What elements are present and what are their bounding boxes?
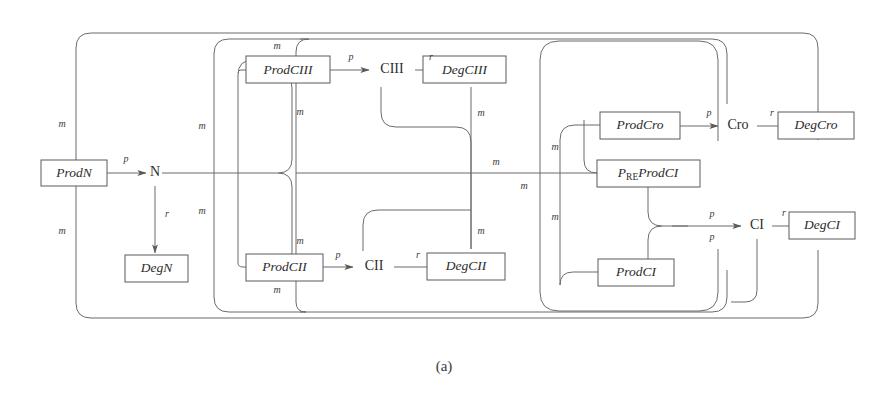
species-n: N (150, 164, 160, 179)
loop6-to-prodci (560, 272, 598, 285)
feedback-loop-cro-inner (560, 125, 600, 285)
rate-label-cro-to-degcro: r (770, 107, 774, 118)
rate-label-preprodci-to-ci: p (709, 208, 715, 219)
rate-label-prodcii-to-cii: p (335, 249, 341, 260)
loop-n-top-path (76, 33, 818, 140)
node-prodciii: ProdCIII (246, 56, 330, 83)
mod-label-cro-upper: m (551, 141, 558, 152)
rate-label-prodciii-to-ciii: p (348, 51, 354, 62)
prodciii-label: ProdCIII (263, 62, 314, 77)
prodci-regulation (584, 120, 597, 173)
network-diagram: ProdCIII CIII DegCIII ProdN N DegN ProdC… (0, 0, 889, 404)
node-prodcro: ProdCro (600, 112, 680, 139)
prodci-up-to-ci (648, 226, 662, 259)
mod-label-degciii-down: m (477, 107, 484, 118)
node-prodn: ProdN (41, 160, 107, 186)
rate-label-prodci-to-ci: p (709, 231, 715, 242)
rate-label-prodcro-to-cro: p (706, 107, 712, 118)
loop3-to-prodcii (238, 263, 246, 267)
figure-caption: (a) (436, 358, 453, 375)
mod-label-degcii-up: m (477, 225, 484, 236)
node-degciii: DegCIII (423, 56, 506, 83)
ci-merge: CI DegCI (648, 187, 855, 302)
ci-feedback-bottom (731, 239, 757, 302)
prodci-label: ProdCI (615, 264, 658, 279)
prodcii-label: ProdCII (261, 259, 308, 274)
degciii-label: DegCIII (441, 62, 488, 77)
rail-296-top-arc (296, 39, 309, 52)
degcii-label: DegCII (445, 258, 488, 273)
species-ciii: CIII (380, 61, 404, 76)
node-prodci: ProdCI (598, 259, 674, 286)
prodn-label: ProdN (55, 165, 92, 180)
mod-label-midline: m (492, 156, 499, 167)
rail-296-bot-arc (296, 302, 306, 312)
feedback-loop-ciii-cii-inner (238, 60, 253, 267)
loop6-to-prodcro (560, 125, 598, 140)
species-cii: CII (365, 258, 384, 273)
species-cro: Cro (728, 117, 749, 132)
mod-label-left-top: m (58, 118, 65, 129)
node-degcro: DegCro (778, 112, 854, 139)
node-degcii: DegCII (427, 253, 505, 280)
figure-panel: ProdCIII CIII DegCIII ProdN N DegN ProdC… (0, 0, 889, 404)
mod-label-left-bottom: m (58, 225, 65, 236)
cii-up-arc (363, 210, 448, 251)
node-degci: DegCI (789, 212, 855, 239)
species-ci: CI (750, 217, 764, 232)
degci-label: DegCI (803, 217, 841, 232)
rate-label-prodn-to-n: p (123, 153, 129, 164)
node-degn: DegN (125, 255, 188, 282)
ciii-cii-crossover (363, 87, 471, 251)
ciii-down-to-degcii (381, 87, 471, 249)
preprodci-down-to-ci (648, 187, 688, 226)
mod-label-loop2-top: m (198, 120, 205, 131)
rate-label-ciii-to-degciii: r (429, 51, 433, 62)
degn-label: DegN (140, 260, 173, 275)
mod-label-cii-bottom: m (273, 284, 280, 295)
loop3-to-prodciii (238, 70, 246, 73)
n-down-branch (276, 173, 292, 267)
n-up-branch (276, 72, 292, 173)
mod-label-cro-lower: m (551, 211, 558, 222)
loop7-curve-into-preprodci (584, 120, 597, 173)
rate-label-n-to-degn: r (165, 208, 169, 219)
node-pre-prodci: PREProdCI (597, 160, 700, 187)
mod-label-ciii-top: m (273, 40, 280, 51)
mod-label-cro-mid: m (520, 180, 527, 191)
degcro-label: DegCro (794, 117, 838, 132)
prodcro-label: ProdCro (615, 117, 663, 132)
rate-label-cii-to-degcii: r (416, 249, 420, 260)
node-prodcii: ProdCII (246, 254, 323, 281)
mod-label-ciii-bottom: m (296, 106, 303, 117)
mod-label-loop2-bottom: m (198, 205, 205, 216)
rate-label-ci-to-degci: r (782, 207, 786, 218)
mod-label-cii-top: m (296, 235, 303, 246)
